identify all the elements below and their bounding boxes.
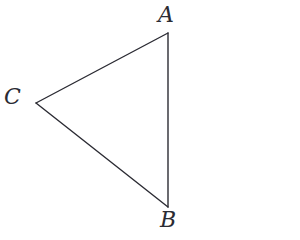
vertex-label-c: C (4, 86, 21, 108)
vertex-label-b: B (160, 209, 176, 231)
figure-canvas: A B C (0, 0, 300, 240)
edge-CB (36, 103, 168, 207)
vertex-label-a: A (158, 4, 174, 26)
triangle-figure (0, 0, 300, 240)
edge-CA (36, 33, 168, 103)
tick-mark-ca-near-c (66, 79, 73, 83)
